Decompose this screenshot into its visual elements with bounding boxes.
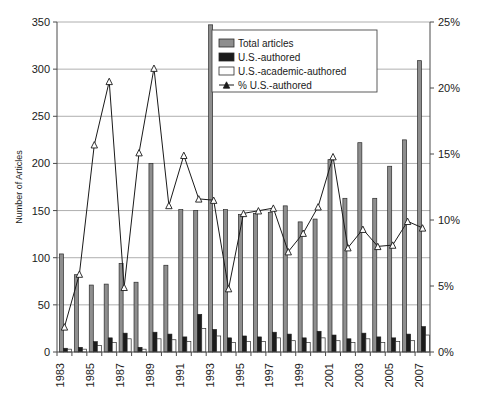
y-tick-label-left: 150 — [32, 205, 50, 217]
legend-label: U.S.-academic-authored — [238, 66, 346, 77]
bar-us-authored — [108, 338, 112, 352]
bar-us-academic-authored — [396, 342, 400, 352]
bar-total-articles — [149, 163, 153, 352]
bar-us-authored — [257, 337, 261, 352]
bar-us-academic-authored — [291, 341, 295, 352]
bar-total-articles — [418, 61, 422, 352]
bar-us-academic-authored — [351, 343, 355, 352]
legend-label: % U.S.-authored — [238, 80, 312, 91]
bar-us-academic-authored — [261, 342, 265, 352]
bar-us-academic-authored — [336, 341, 340, 352]
combo-bar-line-chart: 0501001502002503003500%5%10%15%20%25%198… — [0, 0, 495, 412]
y-tick-label-left: 200 — [32, 157, 50, 169]
bar-total-articles — [388, 166, 392, 352]
pct-markers — [61, 65, 425, 330]
bar-us-authored — [332, 335, 336, 352]
bar-us-authored — [123, 333, 127, 352]
bar-total-articles — [59, 254, 63, 352]
y-tick-label-right: 25% — [438, 16, 460, 28]
y-tick-label-right: 10% — [438, 214, 460, 226]
y-tick-label-right: 15% — [438, 148, 460, 160]
bar-us-authored — [198, 314, 202, 352]
bar-us-authored — [242, 336, 246, 352]
bar-us-academic-authored — [112, 343, 116, 352]
x-tick-label: 1995 — [234, 363, 246, 387]
pct-marker — [91, 142, 97, 148]
pct-marker — [315, 204, 321, 210]
bar-us-authored — [93, 342, 97, 352]
bar-total-articles — [104, 284, 108, 352]
bar-us-academic-authored — [97, 345, 101, 352]
bar-us-academic-authored — [306, 343, 310, 352]
y-tick-label-left: 250 — [32, 110, 50, 122]
x-tick-label: 1983 — [54, 363, 66, 387]
bar-total-articles — [134, 282, 138, 352]
bar-us-authored — [422, 327, 426, 352]
bar-us-academic-authored — [426, 335, 430, 352]
y-tick-label-left: 300 — [32, 63, 50, 75]
y-axis-title-left: Number of Articles — [14, 150, 24, 224]
pct-marker — [76, 271, 82, 277]
bar-total-articles — [253, 213, 257, 352]
bar-us-academic-authored — [157, 339, 161, 352]
x-tick-label: 2001 — [323, 363, 335, 387]
bar-total-articles — [283, 206, 287, 352]
bar-us-authored — [347, 339, 351, 352]
bar-total-articles — [298, 222, 302, 352]
bar-us-authored — [272, 332, 276, 352]
bar-total-articles — [313, 219, 317, 352]
y-tick-label-right: 0% — [438, 346, 454, 358]
x-tick-label: 2005 — [383, 363, 395, 387]
bar-us-authored — [287, 334, 291, 352]
bar-us-authored — [63, 348, 67, 352]
legend-swatch — [219, 53, 234, 61]
bar-total-articles — [268, 212, 272, 352]
bar-us-authored — [138, 347, 142, 352]
bar-us-authored — [317, 331, 321, 352]
bar-us-academic-authored — [217, 336, 221, 352]
bar-us-academic-authored — [232, 343, 236, 352]
bar-us-academic-authored — [366, 339, 370, 352]
bar-us-academic-authored — [321, 338, 325, 352]
pct-marker — [330, 153, 336, 159]
bar-us-academic-authored — [202, 328, 206, 352]
bar-us-academic-authored — [381, 343, 385, 352]
bar-total-articles — [373, 198, 377, 352]
bar-us-authored — [153, 332, 157, 352]
x-tick-label: 1993 — [204, 363, 216, 387]
pct-marker — [181, 152, 187, 158]
x-tick-label: 1997 — [263, 363, 275, 387]
bar-total-articles — [194, 211, 198, 352]
x-tick-label: 2007 — [413, 363, 425, 387]
x-tick-label: 1989 — [144, 363, 156, 387]
bar-total-articles — [89, 285, 93, 352]
pct-marker — [151, 65, 157, 71]
bar-us-academic-authored — [411, 341, 415, 352]
bar-us-authored — [377, 337, 381, 352]
x-tick-label: 1987 — [114, 363, 126, 387]
pct-marker — [106, 78, 112, 84]
legend-label: U.S.-authored — [238, 52, 300, 63]
bar-us-academic-authored — [276, 338, 280, 352]
bar-us-authored — [183, 337, 187, 352]
y-tick-label-right: 20% — [438, 82, 460, 94]
y-tick-label-right: 5% — [438, 280, 454, 292]
x-tick-label: 1985 — [84, 363, 96, 387]
bar-us-authored — [407, 334, 411, 352]
chart-container: 0501001502002503003500%5%10%15%20%25%198… — [0, 0, 495, 412]
y-tick-label-left: 50 — [38, 299, 50, 311]
bar-total-articles — [358, 143, 362, 352]
bar-us-authored — [228, 338, 232, 352]
legend: Total articlesU.S.-authoredU.S.-academic… — [212, 30, 377, 92]
y-tick-label-left: 0 — [44, 346, 50, 358]
x-tick-label: 2003 — [353, 363, 365, 387]
bar-us-academic-authored — [247, 342, 251, 352]
x-tick-label: 1991 — [174, 363, 186, 387]
bar-us-academic-authored — [172, 340, 176, 352]
bar-total-articles — [328, 160, 332, 352]
bar-total-articles — [403, 140, 407, 352]
bar-us-authored — [168, 334, 172, 352]
bar-total-articles — [179, 210, 183, 352]
y-tick-label-left: 100 — [32, 252, 50, 264]
bar-us-authored — [392, 338, 396, 352]
